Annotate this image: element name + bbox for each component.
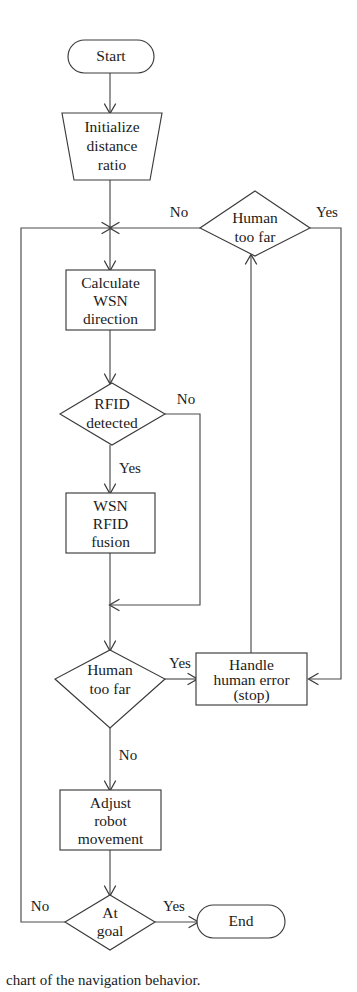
node-rfid-detected: RFID detected [60, 383, 165, 445]
adjust-robot-label-line2: robot [94, 812, 127, 829]
calculate-wsn-label-line1: Calculate [81, 274, 140, 291]
adjust-robot-label-line1: Adjust [90, 794, 132, 811]
human-too-far-1-label-line1: Human [232, 209, 278, 226]
edge-label-rfid-no: No [177, 391, 195, 407]
node-end: End [197, 905, 285, 938]
node-initialize: Initialize distance ratio [62, 113, 162, 180]
initialize-label-line2: distance [87, 137, 138, 154]
calculate-wsn-label-line2: WSN [93, 292, 127, 309]
human-too-far-1-label-line2: too far [235, 228, 277, 245]
wsn-rfid-fusion-label-line3: fusion [91, 533, 130, 550]
node-start: Start [68, 40, 154, 73]
edge-label-atgoal-no: No [31, 898, 49, 914]
node-adjust-robot: Adjust robot movement [60, 790, 161, 850]
figure-caption: chart of the navigation behavior. [6, 972, 201, 988]
edge-label-humanfar1-no: No [170, 204, 188, 220]
connector-humanfar1-yes-to-handle [310, 228, 341, 679]
human-too-far-2-label-line2: too far [90, 680, 132, 697]
node-wsn-rfid-fusion: WSN RFID fusion [66, 493, 155, 553]
rfid-detected-label-line1: RFID [94, 395, 129, 412]
flowchart-canvas: Start Initialize distance ratio Human to… [0, 0, 357, 992]
at-goal-label-line1: At [102, 904, 118, 921]
initialize-label-line1: Initialize [84, 118, 139, 135]
flowchart-container: Start Initialize distance ratio Human to… [0, 0, 357, 992]
calculate-wsn-label-line3: direction [83, 310, 138, 327]
wsn-rfid-fusion-label-line2: RFID [93, 515, 128, 532]
node-human-too-far-2: Human too far [55, 650, 165, 728]
human-too-far-2-label-line1: Human [87, 661, 133, 678]
edge-label-humanfar2-yes: Yes [169, 655, 191, 671]
initialize-label-line3: ratio [98, 156, 127, 173]
edge-label-atgoal-yes: Yes [163, 898, 185, 914]
at-goal-label-line2: goal [97, 922, 124, 939]
wsn-rfid-fusion-label-line1: WSN [93, 497, 127, 514]
node-human-too-far-1: Human too far [200, 191, 310, 256]
rfid-detected-label-line2: detected [86, 414, 138, 431]
edge-label-rfid-yes: Yes [119, 460, 141, 476]
handle-human-error-label-line3: (stop) [233, 686, 269, 704]
edge-label-humanfar2-no: No [119, 747, 137, 763]
node-calculate-wsn: Calculate WSN direction [66, 270, 155, 330]
end-label: End [229, 912, 254, 929]
edge-label-humanfar1-yes: Yes [316, 204, 338, 220]
node-at-goal: At goal [65, 895, 155, 950]
node-handle-human-error: Handle human error (stop) [196, 653, 307, 705]
adjust-robot-label-line3: movement [78, 830, 144, 847]
start-label: Start [96, 47, 126, 64]
